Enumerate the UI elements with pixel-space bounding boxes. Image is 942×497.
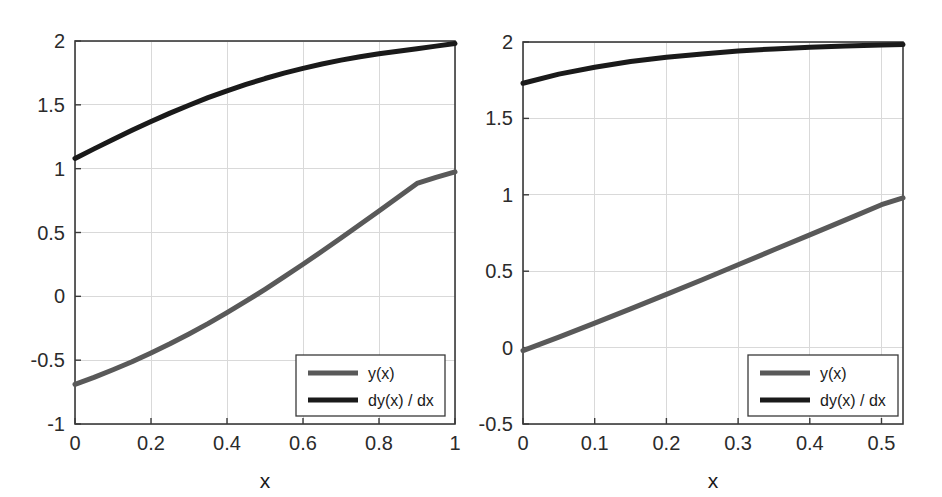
series-line-y [523, 198, 903, 351]
legend-label-y: y(x) [820, 365, 847, 382]
legend-label-y: y(x) [368, 365, 395, 382]
x-tick-label: 0.8 [365, 432, 393, 454]
y-tick-label: 0.5 [37, 222, 65, 244]
y-tick-label: 2 [54, 30, 65, 52]
plot-panel-right: 00.10.20.30.40.5-0.500.511.52 x y(x)dy(x… [471, 0, 942, 497]
figure-two-panel-plot: 00.20.40.60.81-1-0.500.511.52 x y(x)dy(x… [0, 0, 942, 497]
y-tick-label: -1 [47, 413, 65, 435]
left-series-lines [75, 44, 455, 385]
y-tick-label: 0 [54, 285, 65, 307]
y-tick-label: 1.5 [37, 94, 65, 116]
x-tick-label: 0.4 [213, 432, 241, 454]
y-tick-label: 0 [502, 337, 513, 359]
y-tick-label: 1 [502, 184, 513, 206]
left-x-axis-title: x [260, 469, 271, 492]
x-tick-label: 0.3 [724, 432, 752, 454]
right-x-axis-title: x [708, 469, 719, 492]
left-legend[interactable]: y(x)dy(x) / dx [296, 355, 445, 416]
x-tick-label: 0.2 [652, 432, 680, 454]
x-tick-label: 0.6 [289, 432, 317, 454]
y-tick-label: 1 [54, 158, 65, 180]
series-line-y [75, 172, 455, 385]
series-line-dydx [75, 44, 455, 159]
series-line-dydx [523, 45, 903, 84]
x-tick-label: 0 [69, 432, 80, 454]
x-tick-label: 0.5 [868, 432, 896, 454]
x-tick-label: 0.2 [137, 432, 165, 454]
x-tick-label: 0.1 [581, 432, 609, 454]
y-tick-label: 1.5 [485, 107, 513, 129]
y-tick-label: 0.5 [485, 260, 513, 282]
legend-label-dydx: dy(x) / dx [820, 392, 886, 409]
y-tick-label: -0.5 [31, 349, 65, 371]
legend-label-dydx: dy(x) / dx [368, 392, 434, 409]
right-plot-svg: 00.10.20.30.40.5-0.500.511.52 x y(x)dy(x… [471, 0, 942, 497]
x-tick-label: 0 [517, 432, 528, 454]
left-plot-svg: 00.20.40.60.81-1-0.500.511.52 x y(x)dy(x… [0, 0, 471, 497]
x-tick-label: 0.4 [796, 432, 824, 454]
right-series-lines [523, 45, 903, 351]
x-tick-label: 1 [449, 432, 460, 454]
plot-panel-left: 00.20.40.60.81-1-0.500.511.52 x y(x)dy(x… [0, 0, 471, 497]
y-tick-label: -0.5 [479, 413, 513, 435]
right-legend[interactable]: y(x)dy(x) / dx [748, 355, 898, 416]
y-tick-label: 2 [502, 31, 513, 53]
